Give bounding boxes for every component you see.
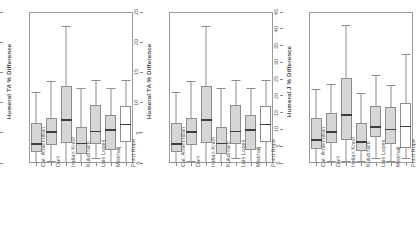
x-axis-label-text: Mistihalj xyxy=(255,146,261,167)
upper-whisker-cap xyxy=(357,93,366,94)
y-tick-mark xyxy=(280,95,283,96)
panel-1: Humeral TA % Difference0510152025Cal. Am… xyxy=(0,0,140,229)
lower-whisker xyxy=(221,154,222,162)
x-axis-label-text: Kulubnarti xyxy=(365,141,371,167)
upper-whisker-cap xyxy=(32,92,41,93)
upper-whisker-cap xyxy=(342,25,351,26)
upper-whisker-cap xyxy=(121,80,130,81)
lower-whisker xyxy=(331,143,332,161)
x-tick xyxy=(126,163,127,166)
y-tick-mark xyxy=(280,45,283,46)
x-axis-label-text: Luis Lopes xyxy=(380,139,386,167)
x-axis-label-text: Mistihalj xyxy=(115,146,121,167)
median-line xyxy=(260,124,271,126)
y-tick-mark xyxy=(280,129,283,130)
upper-whisker-cap xyxy=(106,88,115,89)
x-tick xyxy=(36,163,37,166)
upper-whisker xyxy=(81,88,82,127)
median-line xyxy=(326,131,337,133)
x-axis-label-text: Kulubnarti xyxy=(85,141,91,167)
median-line xyxy=(120,124,131,126)
x-axis-label-text: Mistihalj xyxy=(395,146,401,167)
upper-whisker-cap xyxy=(401,54,410,55)
upper-whisker-cap xyxy=(386,85,395,86)
y-tick-mark xyxy=(280,28,283,29)
x-axis-label-text: Dart xyxy=(195,156,201,167)
upper-whisker-cap xyxy=(47,81,56,82)
y-axis-ticks: 0510152025 xyxy=(140,0,170,229)
y-tick-mark xyxy=(140,102,143,103)
lower-whisker xyxy=(375,137,376,157)
x-axis-label-text: Cal. Amerindian xyxy=(320,127,326,167)
x-tick xyxy=(391,163,392,166)
upper-whisker xyxy=(331,84,332,113)
x-tick xyxy=(66,163,67,166)
x-tick xyxy=(361,163,362,166)
y-tick-mark xyxy=(280,163,283,164)
y-tick-mark xyxy=(140,132,143,133)
box-iqr xyxy=(90,105,101,144)
y-tick-mark xyxy=(0,12,3,13)
upper-whisker xyxy=(125,80,126,106)
upper-whisker xyxy=(316,89,317,118)
x-axis-label-text: Dart xyxy=(335,156,341,167)
y-axis-ticks: 051015202530354045 xyxy=(280,0,310,229)
y-tick-label: 25 xyxy=(133,9,139,15)
y-tick-mark xyxy=(280,146,283,147)
box-plot-6 xyxy=(245,12,256,163)
upper-whisker-cap xyxy=(77,88,86,89)
upper-whisker-cap xyxy=(246,88,255,89)
y-tick-label: 20 xyxy=(273,93,279,99)
y-axis-ticks: 0510152025 xyxy=(0,0,30,229)
lower-whisker xyxy=(110,150,111,163)
lower-whisker xyxy=(36,152,37,163)
lower-whisker xyxy=(265,142,266,163)
x-tick xyxy=(81,163,82,166)
upper-whisker-cap xyxy=(261,80,270,81)
upper-whisker xyxy=(66,26,67,86)
y-tick-mark xyxy=(0,102,3,103)
box-iqr xyxy=(385,107,396,143)
upper-whisker-cap xyxy=(371,75,380,76)
upper-whisker-cap xyxy=(91,80,100,81)
lower-whisker xyxy=(235,144,236,158)
upper-whisker xyxy=(176,92,177,123)
y-tick-mark xyxy=(140,42,143,43)
x-axis-label-text: Indian Knoll xyxy=(210,137,216,167)
y-tick-label: 35 xyxy=(273,43,279,49)
x-axis-label-text: Kulubnarti xyxy=(225,141,231,167)
box-iqr xyxy=(326,113,337,143)
median-line xyxy=(400,126,411,128)
y-tick-label: 10 xyxy=(133,100,139,106)
x-axis-label-text: Luis Lopes xyxy=(100,139,106,167)
upper-whisker-cap xyxy=(217,88,226,89)
x-axis-label-text: Luis Lopes xyxy=(240,139,246,167)
median-line xyxy=(90,131,101,133)
x-axis-labels: Cal. AmerindianDartIndian KnollKulubnart… xyxy=(309,167,413,229)
x-tick xyxy=(221,163,222,166)
y-tick-mark xyxy=(280,112,283,113)
lower-whisker xyxy=(81,154,82,162)
x-axis-labels: Cal. AmerindianDartIndian KnollKulubnart… xyxy=(29,167,133,229)
y-tick-mark xyxy=(0,163,3,164)
x-tick xyxy=(316,163,317,166)
lower-whisker xyxy=(51,145,52,160)
x-tick xyxy=(251,163,252,166)
lower-whisker xyxy=(66,143,67,162)
y-tick-mark xyxy=(140,12,143,13)
x-tick xyxy=(236,163,237,166)
box-plot-6 xyxy=(105,12,116,163)
upper-whisker xyxy=(206,26,207,86)
lower-whisker-cap xyxy=(371,158,380,159)
upper-whisker-cap xyxy=(187,81,196,82)
lower-whisker xyxy=(361,151,362,161)
upper-whisker-cap xyxy=(231,80,240,81)
x-tick xyxy=(51,163,52,166)
y-tick-label: 20 xyxy=(133,39,139,45)
x-tick xyxy=(191,163,192,166)
y-tick-label: 45 xyxy=(273,9,279,15)
y-tick-mark xyxy=(140,163,143,164)
y-tick-mark xyxy=(280,12,283,13)
x-axis-labels: Cal. AmerindianDartIndian KnollKulubnart… xyxy=(169,167,273,229)
panel-3: Humeral J % Difference051015202530354045… xyxy=(280,0,420,229)
